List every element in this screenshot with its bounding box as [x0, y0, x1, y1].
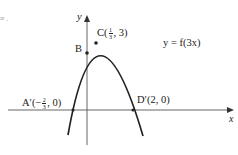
point-b-label: B — [75, 44, 82, 55]
fraction: 23 — [42, 97, 46, 110]
point-c-label: C(13, 3) — [97, 27, 128, 40]
point-a-prime — [72, 109, 75, 112]
point-a-prime-label: A′(−23, 0) — [22, 97, 61, 110]
point-b — [85, 51, 89, 55]
point-c — [94, 41, 98, 45]
parabola-curve — [68, 56, 143, 136]
graph-canvas — [0, 0, 238, 155]
point-d-prime — [132, 109, 135, 112]
y-axis-label: y — [77, 12, 82, 23]
fraction: 13 — [109, 27, 113, 40]
x-axis-label: x — [229, 114, 233, 124]
function-label: y = f(3x) — [163, 38, 200, 49]
point-d-prime-label: D′(2, 0) — [137, 95, 170, 106]
y-axis-arrow-icon — [84, 15, 90, 22]
